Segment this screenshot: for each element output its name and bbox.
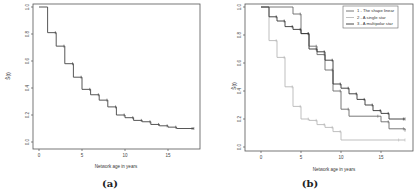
x-tick-label: 0: [260, 155, 263, 160]
y-tick-label: 0.2: [237, 115, 242, 122]
x-tick-label: 5: [81, 153, 84, 158]
x-axis-a: 051015: [38, 149, 171, 158]
y-axis-label-b: Ŝ(t): [231, 82, 237, 90]
series-group-a: [39, 7, 194, 130]
y-tick-label: 1.0: [237, 3, 242, 10]
y-axis-b: 0.00.20.40.60.81.0: [237, 3, 245, 150]
panel-label-b: (b): [302, 178, 318, 189]
legend-entry: 3 - A multipolar star: [357, 21, 393, 26]
y-tick-label: 0.6: [25, 57, 30, 64]
x-tick-label: 15: [378, 155, 384, 160]
y-tick-label: 0.0: [25, 138, 30, 145]
y-tick-label: 0.2: [25, 111, 30, 118]
y-tick-label: 1.0: [25, 3, 30, 10]
y-tick-label: 0.6: [237, 59, 242, 66]
y-tick-label: 0.4: [25, 84, 30, 91]
y-tick-label: 0.8: [237, 31, 242, 38]
x-tick-label: 15: [165, 153, 171, 158]
figure: 0.00.20.40.60.81.0 051015 Network age in…: [0, 0, 416, 194]
x-axis-label-b: Network age in years: [313, 167, 356, 172]
y-tick-label: 0.4: [237, 87, 242, 94]
x-axis-label-a: Network age in years: [95, 164, 138, 169]
y-tick-label: 0.0: [237, 143, 242, 150]
legend-entry: 2 - A single star: [357, 15, 386, 20]
panel-b: 0.00.20.40.60.81.0 051015 1 - The shape …: [231, 3, 413, 189]
y-axis-a: 0.00.20.40.60.81.0: [25, 3, 33, 145]
x-tick-label: 10: [122, 153, 128, 158]
y-axis-label-a: Ŝ(t): [5, 72, 11, 80]
x-tick-label: 5: [300, 155, 303, 160]
y-tick-label: 0.8: [25, 30, 30, 37]
series-line-1: [39, 7, 194, 129]
panel-label-a: (a): [102, 178, 118, 189]
x-tick-label: 10: [338, 155, 344, 160]
panel-a: 0.00.20.40.60.81.0 051015 Network age in…: [5, 3, 200, 189]
x-tick-label: 0: [38, 153, 41, 158]
legend-b: 1 - The shape linear2 - A single star3 -…: [343, 6, 398, 28]
x-axis-b: 051015: [260, 151, 384, 160]
legend-entry: 1 - The shape linear: [357, 8, 395, 13]
